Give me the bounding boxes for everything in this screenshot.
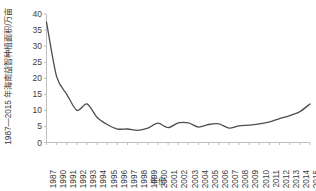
data-line-series <box>47 22 311 130</box>
chart-figure: 1987—2015 年海南益智种植面积/万亩 0510152025303540 … <box>0 0 316 191</box>
x-axis-title: 年份 <box>0 174 316 186</box>
x-axis-tick-labels: 1987199019911992199319941995199619971998… <box>0 144 316 174</box>
